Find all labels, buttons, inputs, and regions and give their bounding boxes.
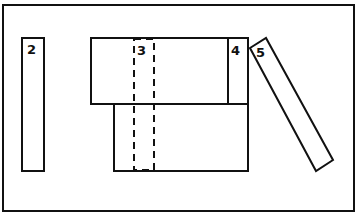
- piece-2-label: 2: [27, 42, 36, 57]
- piece-4: 4: [228, 38, 240, 104]
- piece-4-label: 4: [231, 43, 240, 58]
- piece-5: 5: [250, 38, 333, 171]
- layout-diagram: 2 3 4 5: [0, 0, 357, 217]
- upper-block: [91, 38, 248, 104]
- piece-5-label: 5: [256, 45, 265, 60]
- piece-2: 2: [22, 38, 44, 171]
- piece-2-outline: [22, 38, 44, 171]
- piece-3-label: 3: [137, 43, 146, 58]
- outer-frame: [3, 5, 354, 211]
